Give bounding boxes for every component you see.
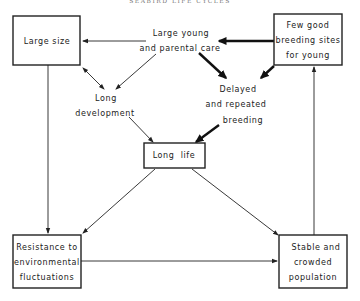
node-long-life: Long life xyxy=(144,143,205,168)
long-life-label: Long life xyxy=(153,151,196,160)
delayed-breeding-label-line-2: and repeated xyxy=(206,100,267,109)
edge-parental-care-to-long-development xyxy=(116,54,156,89)
edge-delayed-breeding-to-long-life xyxy=(196,125,219,142)
long-development-label-line-2: development xyxy=(75,109,134,118)
resistance-label-line-3: fluctuations xyxy=(20,273,74,282)
breeding-sites-label-line-2: breeding sites xyxy=(275,36,340,45)
stable-population-label-line-3: population xyxy=(289,273,338,282)
node-large-size: Large size xyxy=(13,16,80,65)
delayed-breeding-label-line-3: breeding xyxy=(223,116,263,125)
delayed-breeding-label-line-1: Delayed xyxy=(219,85,256,94)
node-few-good-breeding-sites: Few good breeding sites for young xyxy=(274,14,342,65)
large-size-label: Large size xyxy=(24,37,71,46)
running-head: SEABIRD LIFE CYCLES xyxy=(129,0,231,4)
breeding-sites-label-line-3: for young xyxy=(286,51,330,60)
stable-population-label-line-1: Stable and xyxy=(292,243,341,252)
node-long-development: Long development xyxy=(75,94,134,118)
long-development-label-line-1: Long xyxy=(95,94,117,103)
parental-care-label-line-2: and parental care xyxy=(139,44,220,53)
node-large-young-parental-care: Large young and parental care xyxy=(139,29,220,53)
edge-large-size-long-development xyxy=(83,68,104,89)
edge-long-life-to-resistance xyxy=(83,169,155,233)
node-delayed-repeated-breeding: Delayed and repeated breeding xyxy=(206,85,267,125)
node-stable-population: Stable and crowded population xyxy=(279,235,347,288)
resistance-label-line-2: environmental xyxy=(14,258,80,267)
life-history-diagram: SEABIRD LIFE CYCLES Large size xyxy=(0,0,360,301)
node-resistance: Resistance to environmental fluctuations xyxy=(13,235,81,288)
edge-breeding-sites-to-delayed-breeding xyxy=(261,66,274,78)
edge-long-life-to-stable-population xyxy=(192,169,278,235)
edge-long-development-to-long-life xyxy=(129,117,153,142)
resistance-label-line-1: Resistance to xyxy=(16,243,77,252)
parental-care-label-line-1: Large young xyxy=(153,29,210,38)
breeding-sites-label-line-1: Few good xyxy=(287,21,330,30)
stable-population-label-line-2: crowded xyxy=(294,258,332,267)
edge-parental-care-to-delayed-breeding xyxy=(199,53,226,78)
